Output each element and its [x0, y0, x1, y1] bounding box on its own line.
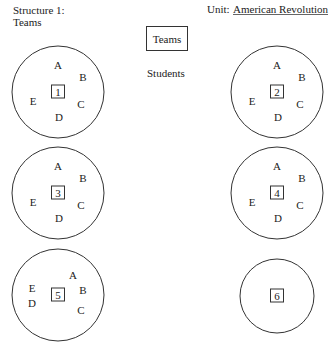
team-number: 2 — [274, 86, 280, 98]
student-d: D — [274, 111, 282, 123]
student-e: E — [249, 196, 256, 208]
student-c: C — [77, 98, 84, 110]
student-b: B — [79, 71, 86, 83]
student-e: E — [30, 196, 37, 208]
team-number: 6 — [274, 290, 280, 302]
team-5: 5ABCDE — [12, 249, 104, 341]
student-a: A — [273, 160, 281, 172]
student-e: E — [30, 95, 37, 107]
team-number: 5 — [55, 289, 61, 301]
team-number: 4 — [274, 187, 280, 199]
team-6: 6 — [240, 259, 314, 333]
student-d: D — [55, 111, 63, 123]
student-c: C — [296, 98, 303, 110]
student-a: A — [273, 59, 281, 71]
student-d: D — [274, 212, 282, 224]
team-circles-diagram: 1ABCDE2ABCDE3ABCDE4ABCDE5ABCDE6 — [0, 0, 330, 348]
team-4: 4ABCDE — [231, 147, 323, 239]
student-d: D — [28, 297, 36, 309]
student-c: C — [77, 304, 84, 316]
student-b: B — [79, 172, 86, 184]
student-b: B — [79, 284, 86, 296]
student-a: A — [69, 269, 77, 281]
team-number: 1 — [55, 86, 61, 98]
team-1: 1ABCDE — [12, 46, 104, 138]
student-e: E — [249, 95, 256, 107]
student-c: C — [296, 199, 303, 211]
student-b: B — [298, 71, 305, 83]
team-2: 2ABCDE — [231, 46, 323, 138]
student-b: B — [298, 172, 305, 184]
student-e: E — [29, 282, 36, 294]
team-number: 3 — [55, 187, 61, 199]
student-c: C — [77, 199, 84, 211]
student-d: D — [55, 212, 63, 224]
student-a: A — [54, 160, 62, 172]
team-3: 3ABCDE — [12, 147, 104, 239]
student-a: A — [54, 59, 62, 71]
